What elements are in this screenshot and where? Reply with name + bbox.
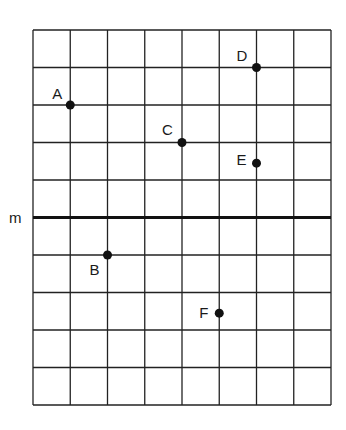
- point-d: D: [237, 47, 262, 73]
- point-dot: [103, 251, 112, 260]
- point-dot: [252, 63, 261, 72]
- point-label: A: [52, 85, 62, 102]
- point-label: D: [237, 47, 248, 64]
- point-dot: [252, 159, 261, 168]
- point-label: C: [162, 121, 173, 138]
- point-dot: [66, 101, 75, 110]
- line-m-label: m: [9, 209, 22, 226]
- grid-diagram: m ABCDEF: [0, 0, 346, 430]
- point-label: F: [199, 304, 208, 321]
- point-dot: [178, 138, 187, 147]
- point-label: E: [237, 151, 247, 168]
- points: ABCDEF: [52, 47, 261, 322]
- point-a: A: [52, 85, 75, 110]
- line-m: m: [9, 209, 331, 226]
- point-label: B: [90, 261, 100, 278]
- point-e: E: [237, 151, 262, 168]
- point-dot: [215, 309, 224, 318]
- point-f: F: [199, 304, 224, 321]
